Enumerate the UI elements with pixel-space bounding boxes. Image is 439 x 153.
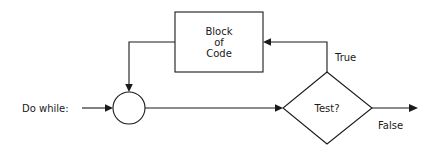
- test-false-to-exit-arrowhead: [409, 104, 418, 112]
- block-to-junction-arrowhead: [125, 84, 133, 92]
- false-branch-label: False: [378, 120, 403, 131]
- edge-test-false-to-exit: [372, 104, 418, 112]
- flowchart-svg: Do while: Block of Code Test? True: [0, 0, 439, 153]
- edge-junction-to-test: [145, 104, 283, 112]
- true-branch-label: True: [334, 52, 356, 63]
- edge-entry-to-junction: [82, 104, 113, 112]
- junction-to-test-arrowhead: [275, 104, 283, 112]
- edge-test-true-to-block: [263, 38, 327, 72]
- test-true-to-block-arrowhead: [263, 38, 271, 46]
- block-of-code-label-line-1: Block: [205, 26, 232, 37]
- flowchart-canvas: Do while: Block of Code Test? True: [0, 0, 439, 153]
- block-to-junction-path: [129, 42, 175, 87]
- entry-to-junction-arrowhead: [105, 104, 113, 112]
- junction-circle-node: [113, 92, 145, 124]
- test-true-to-block-path: [268, 42, 327, 72]
- entry-label: Do while:: [22, 103, 69, 114]
- edge-block-to-junction: [125, 42, 175, 92]
- block-of-code-label-line-2: of: [214, 37, 224, 48]
- block-of-code-label-line-3: Code: [206, 48, 232, 59]
- test-decision-label: Test?: [314, 103, 340, 114]
